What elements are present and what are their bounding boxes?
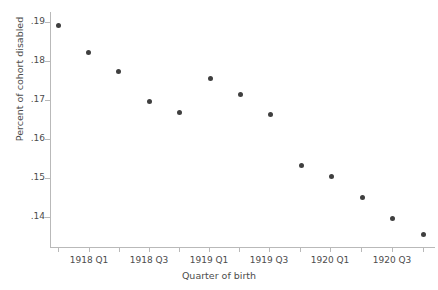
data-point [116, 69, 121, 74]
data-point [421, 232, 426, 237]
y-axis-tick-label: .18 [0, 56, 45, 65]
x-axis-tick [423, 247, 424, 252]
x-axis-tick-label: 1918 Q1 [70, 255, 109, 265]
y-axis-line [50, 12, 51, 247]
y-axis-tick [45, 217, 50, 218]
x-axis-tick [392, 247, 393, 252]
y-axis-tick-label: .17 [0, 95, 45, 104]
data-point [238, 92, 243, 97]
y-axis-tick [45, 100, 50, 101]
y-axis-tick-label: .19 [0, 17, 45, 26]
data-point [86, 50, 91, 55]
x-axis-tick [361, 247, 362, 252]
data-point [390, 216, 395, 221]
y-axis-tick [45, 139, 50, 140]
x-axis-tick [58, 247, 59, 252]
x-axis-tick [269, 247, 270, 252]
x-axis-tick-label: 1919 Q1 [190, 255, 229, 265]
x-axis-tick [239, 247, 240, 252]
y-axis-tick [45, 178, 50, 179]
x-axis-tick [330, 247, 331, 252]
data-point [208, 76, 213, 81]
x-axis-tick [209, 247, 210, 252]
data-point [177, 110, 182, 115]
scatter-plot-figure: Percent of cohort disabled .19 .18 .17 .… [0, 0, 438, 290]
data-point [299, 163, 304, 168]
x-axis-tick [119, 247, 120, 252]
y-axis-tick-label: .15 [0, 173, 45, 182]
data-point [147, 99, 152, 104]
x-axis-tick [300, 247, 301, 252]
data-point [56, 23, 61, 28]
data-point [329, 174, 334, 179]
x-axis-tick-label: 1920 Q3 [373, 255, 412, 265]
x-axis-tick [149, 247, 150, 252]
x-axis-tick [89, 247, 90, 252]
x-axis-tick [179, 247, 180, 252]
y-axis-tick-label: .14 [0, 212, 45, 221]
x-axis-title: Quarter of birth [0, 270, 438, 281]
y-axis-tick-label: .16 [0, 134, 45, 143]
y-axis-tick [45, 61, 50, 62]
x-axis-line [50, 247, 435, 248]
x-axis-tick-label: 1918 Q3 [130, 255, 169, 265]
y-axis-tick [45, 22, 50, 23]
data-point [360, 195, 365, 200]
data-point [268, 112, 273, 117]
x-axis-tick-label: 1920 Q1 [311, 255, 350, 265]
x-axis-tick-label: 1919 Q3 [250, 255, 289, 265]
